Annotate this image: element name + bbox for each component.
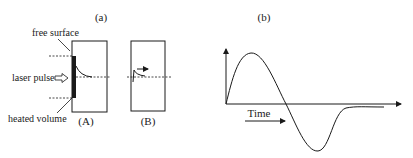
decay-curve-a: [76, 66, 92, 77]
laser-pulse-label: laser pulse: [12, 72, 55, 83]
heated-volume-leader: [57, 98, 72, 113]
free-surface-leader: [58, 39, 70, 51]
sample-box-b: [131, 41, 165, 111]
heated-volume-label: heated volume: [8, 113, 67, 124]
subpanel-a-label: (A): [78, 115, 94, 128]
signal-waveform: [226, 53, 384, 151]
heated-layer: [72, 56, 76, 98]
panel-a-title: (a): [95, 11, 108, 24]
laser-pulse-arrow-icon: [55, 74, 68, 83]
time-label: Time: [248, 107, 271, 119]
free-surface-label: free surface: [32, 27, 79, 38]
propagating-wave: [133, 70, 145, 82]
panel-b: (b) Time: [226, 11, 401, 151]
panel-b-title: (b): [258, 11, 271, 24]
subpanel-b-label: (B): [141, 115, 156, 128]
figure-canvas: (a) free surface laser pulse heated volu…: [0, 0, 413, 158]
panel-a: (a) free surface laser pulse heated volu…: [8, 11, 171, 128]
